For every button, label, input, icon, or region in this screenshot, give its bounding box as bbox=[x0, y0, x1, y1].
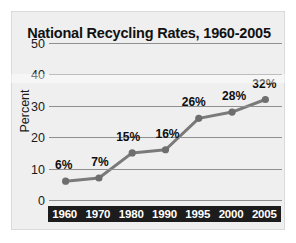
plot-area: 504030201006%7%15%16%26%28%32% bbox=[49, 43, 282, 200]
chart-title: National Recycling Rates, 1960-2005 bbox=[12, 25, 286, 41]
y-axis-tick-label: 50 bbox=[31, 37, 45, 51]
x-axis-tick-label: 1995 bbox=[181, 206, 214, 222]
x-axis-tick-label: 2005 bbox=[248, 206, 281, 222]
x-axis-tick-label: 1960 bbox=[48, 206, 81, 222]
x-axis-band: 1960197019801990199520002005 bbox=[48, 206, 281, 222]
chart-screenshot: National Recycling Rates, 1960-2005 Perc… bbox=[0, 0, 296, 243]
data-point-marker bbox=[62, 178, 69, 185]
data-point-label: 15% bbox=[116, 130, 140, 144]
gridline: 0 bbox=[49, 200, 282, 201]
y-axis-tick-label: 20 bbox=[31, 131, 45, 145]
data-point-marker bbox=[129, 149, 136, 156]
data-point-label: 7% bbox=[91, 155, 108, 169]
y-axis-tick-label: 40 bbox=[31, 68, 45, 82]
data-point-label: 32% bbox=[252, 77, 276, 91]
data-point-marker bbox=[95, 174, 102, 181]
x-axis-tick-label: 1980 bbox=[115, 206, 148, 222]
data-point-marker bbox=[195, 115, 202, 122]
data-point-label: 28% bbox=[222, 89, 246, 103]
x-axis-tick-label: 2000 bbox=[214, 206, 247, 222]
x-axis-tick-label: 1990 bbox=[148, 206, 181, 222]
y-axis-title: Percent bbox=[18, 76, 32, 146]
data-point-label: 16% bbox=[155, 127, 179, 141]
chart-panel: National Recycling Rates, 1960-2005 Perc… bbox=[11, 11, 285, 230]
y-axis-tick-label: 10 bbox=[31, 163, 45, 177]
data-point-label: 26% bbox=[182, 95, 206, 109]
gridline: 10 bbox=[49, 169, 282, 170]
line-series bbox=[49, 43, 282, 200]
data-point-label: 6% bbox=[55, 158, 72, 172]
gridline: 50 bbox=[49, 43, 282, 44]
gridline: 30 bbox=[49, 106, 282, 107]
x-axis-tick-label: 1970 bbox=[81, 206, 114, 222]
gridline: 40 bbox=[49, 74, 282, 75]
data-point-marker bbox=[162, 146, 169, 153]
y-axis-tick-label: 30 bbox=[31, 100, 45, 114]
data-point-marker bbox=[262, 96, 269, 103]
data-point-marker bbox=[228, 108, 235, 115]
y-axis-tick-label: 0 bbox=[38, 194, 45, 208]
